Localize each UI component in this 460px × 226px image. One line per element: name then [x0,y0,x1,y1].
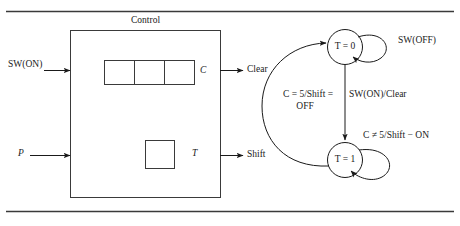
t1-to-t0-label-line2: OFF [270,101,340,112]
shift-output-label: Shift [247,149,265,160]
clear-output-label: Clear [247,64,268,75]
state-t-1-label: T = 1 [328,154,362,165]
figure-vector-layer [0,0,460,226]
sw-on-input-label: SW(ON) [8,59,42,70]
toggle-register-label: T [192,148,197,159]
control-box-title: Control [131,15,160,26]
p-input-label: P [18,148,24,159]
figure-container: Control SW(ON) P Clear Shift C T T = 0 T… [0,0,460,226]
counter-register-label: C [200,65,206,76]
control-box [71,31,221,198]
t1-to-t0-label-line1: C = 5/Shift = [270,89,346,100]
toggle-register-cell [146,141,175,169]
t0-to-t1-label: SW(ON)/Clear [349,89,407,100]
self-loop-t1-label: C ≠ 5/Shift − ON [363,130,429,141]
state-t-0-label: T = 0 [328,41,362,52]
counter-register-cells [105,61,195,85]
self-loop-t0-label: SW(OFF) [398,35,436,46]
